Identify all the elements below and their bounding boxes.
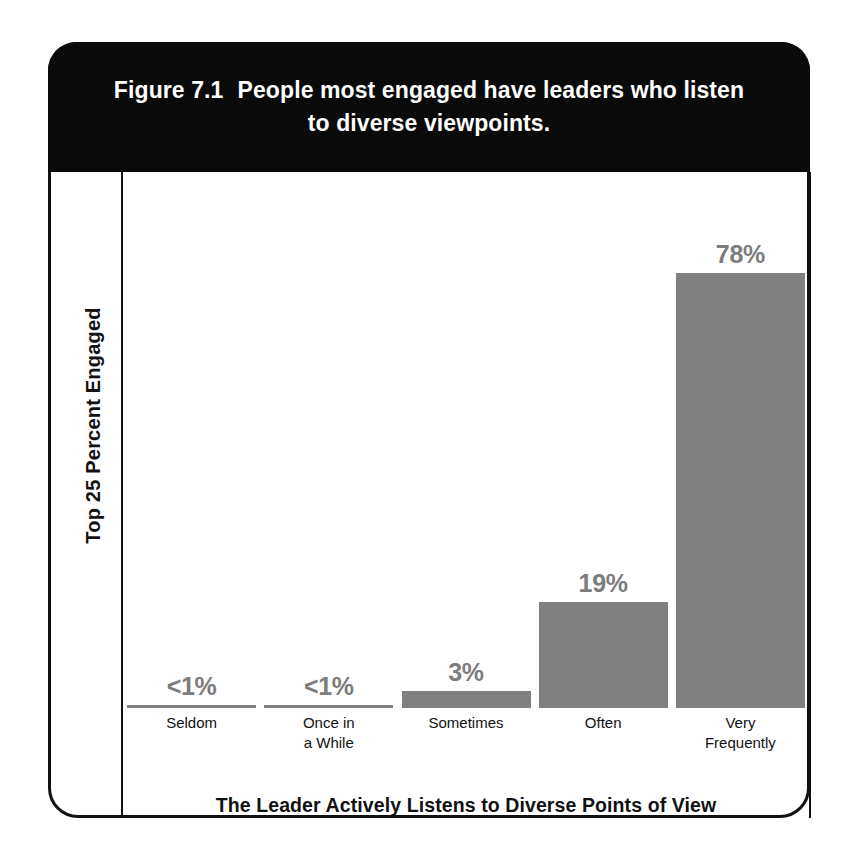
category-labels: SeldomOnce ina WhileSometimesOftenVeryFr…	[123, 713, 809, 783]
category-label-line: Once in	[260, 713, 397, 733]
bar-value-label: <1%	[264, 672, 393, 701]
bar-rect	[402, 691, 531, 708]
category-label-line: Often	[535, 713, 672, 733]
bars-container: <1%<1%3%19%78%	[123, 172, 809, 708]
bar-rect	[264, 705, 393, 708]
bar-seldom: <1%	[127, 172, 256, 708]
category-label-line: Sometimes	[397, 713, 534, 733]
chart-plot-area: Top 25 Percent Engaged <1%<1%3%19%78% Se…	[51, 172, 807, 818]
category-label: Sometimes	[397, 713, 534, 733]
figure-title: Figure 7.1People most engaged have leade…	[109, 74, 749, 139]
bar-value-label: 78%	[676, 240, 805, 269]
bar-very-frequently: 78%	[676, 172, 805, 708]
bar-value-label: 3%	[402, 658, 531, 687]
category-label-line: a While	[260, 733, 397, 753]
category-label-line: Frequently	[672, 733, 809, 753]
category-label: Often	[535, 713, 672, 733]
bar-value-label: 19%	[539, 569, 668, 598]
category-label-line: Very	[672, 713, 809, 733]
figure-title-text: People most engaged have leaders who lis…	[238, 77, 745, 136]
category-label-line: Seldom	[123, 713, 260, 733]
bar-sometimes: 3%	[402, 172, 531, 708]
figure-title-banner: Figure 7.1People most engaged have leade…	[48, 42, 810, 172]
bar-often: 19%	[539, 172, 668, 708]
bar-rect	[127, 705, 256, 708]
x-axis-title: The Leader Actively Listens to Diverse P…	[121, 794, 811, 817]
bar-rect	[676, 273, 805, 709]
category-label: VeryFrequently	[672, 713, 809, 754]
bar-once-in-a-while: <1%	[264, 172, 393, 708]
bar-value-label: <1%	[127, 672, 256, 701]
category-label: Seldom	[123, 713, 260, 733]
y-axis-title: Top 25 Percent Engaged	[82, 276, 105, 576]
bar-rect	[539, 602, 668, 708]
figure-number: Figure 7.1	[114, 77, 224, 103]
figure-card: Figure 7.1People most engaged have leade…	[48, 42, 810, 818]
category-label: Once ina While	[260, 713, 397, 754]
